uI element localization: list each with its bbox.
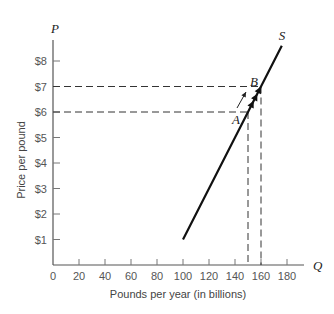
y-tick-label: $2 (35, 208, 47, 220)
x-tick-label: 140 (226, 270, 244, 282)
x-axis-title: Pounds per year (in billions) (110, 288, 246, 300)
x-tick-label: 40 (99, 270, 111, 282)
x-tick-label: 20 (73, 270, 85, 282)
supply-label: S (279, 28, 286, 43)
y-tick-label: $8 (35, 55, 47, 67)
y-tick-label: $7 (35, 81, 47, 93)
point-b-label: B (250, 74, 258, 89)
x-axis-symbol: Q (313, 258, 323, 273)
x-tick-label: 120 (200, 270, 218, 282)
x-tick-label: 100 (174, 270, 192, 282)
y-tick-label: $6 (35, 106, 47, 118)
x-tick-label: 160 (252, 270, 270, 282)
movement-arrows (237, 87, 261, 109)
y-ticks: $1$2$3$4$5$6$7$8 (35, 55, 60, 246)
y-tick-label: $4 (35, 157, 47, 169)
x-tick-label: 80 (151, 270, 163, 282)
point-a-label: A (231, 112, 240, 127)
x-tick-label: 0 (50, 270, 56, 282)
supply-chart: 020406080100120140160180 $1$2$3$4$5$6$7$… (0, 0, 334, 314)
y-axis-title: Price per pound (15, 121, 27, 199)
y-tick-label: $1 (35, 234, 47, 246)
y-axis-symbol: P (50, 21, 59, 36)
supply-line (183, 46, 282, 240)
y-tick-label: $5 (35, 132, 47, 144)
x-tick-label: 60 (125, 270, 137, 282)
x-ticks: 020406080100120140160180 (50, 259, 296, 282)
y-tick-label: $3 (35, 183, 47, 195)
supply-curve (183, 46, 282, 240)
x-tick-label: 180 (278, 270, 296, 282)
dashed-guides (53, 87, 261, 266)
